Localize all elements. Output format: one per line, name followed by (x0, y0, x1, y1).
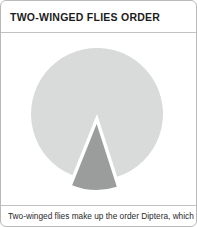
pie-chart-area (1, 33, 197, 205)
caption-text: Two-winged flies make up the order Dipte… (8, 211, 194, 222)
card-header: TWO-WINGED FLIES ORDER (1, 1, 197, 33)
pie-chart (1, 33, 197, 205)
card-caption: Two-winged flies make up the order Dipte… (1, 206, 197, 227)
two-winged-flies-order-card: TWO-WINGED FLIES ORDER Two-winged flies … (0, 0, 197, 227)
page-title: TWO-WINGED FLIES ORDER (10, 11, 160, 23)
